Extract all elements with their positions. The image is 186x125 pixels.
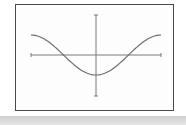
bottom-bar — [0, 116, 186, 125]
plot-frame — [15, 4, 174, 111]
function-plot — [16, 5, 175, 112]
